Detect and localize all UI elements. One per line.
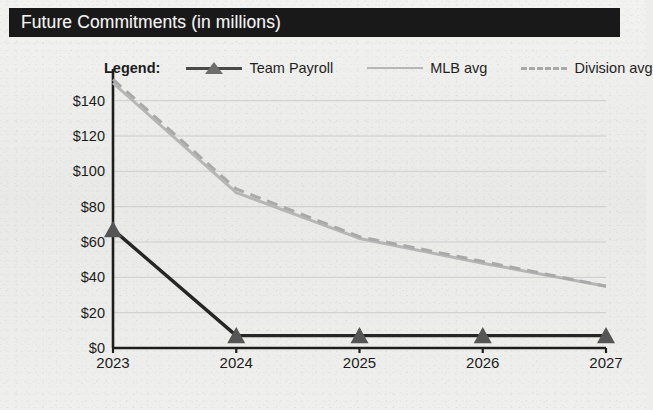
x-axis-label: 2023 <box>96 354 129 371</box>
x-axis-label: 2027 <box>589 354 622 371</box>
chart-title-bar: Future Commitments (in millions) <box>9 8 620 37</box>
page-title: Future Commitments (in millions) <box>9 12 281 33</box>
x-axis-label: 2025 <box>343 354 376 371</box>
x-axis-label: 2024 <box>220 354 253 371</box>
chart-plot-area: $0$20$40$60$80$100$120$140 2023202420252… <box>9 41 620 386</box>
chart-plot-card: Legend: Team Payroll MLB avg Division av… <box>9 41 620 386</box>
x-axis-label: 2026 <box>466 354 499 371</box>
x-axis-tick-labels: 20232024202520262027 <box>9 41 620 386</box>
